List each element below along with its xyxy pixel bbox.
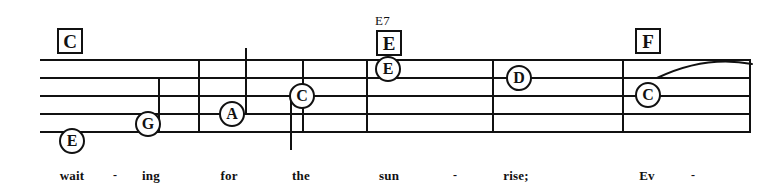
note-head-a-3[interactable]: A bbox=[219, 101, 245, 127]
note-head-e-5[interactable]: E bbox=[375, 56, 401, 82]
music-score-canvas: EGACEDCCE7EFwait-ingforthesun-rise;Ev- bbox=[0, 0, 781, 188]
note-head-c-4[interactable]: C bbox=[289, 83, 315, 109]
note-head-c-7[interactable]: C bbox=[635, 82, 661, 108]
note-head-e-1[interactable]: E bbox=[59, 128, 85, 154]
note-head-g-2[interactable]: G bbox=[135, 111, 161, 137]
note-head-d-6[interactable]: D bbox=[506, 65, 532, 91]
slur-arc bbox=[0, 0, 781, 188]
